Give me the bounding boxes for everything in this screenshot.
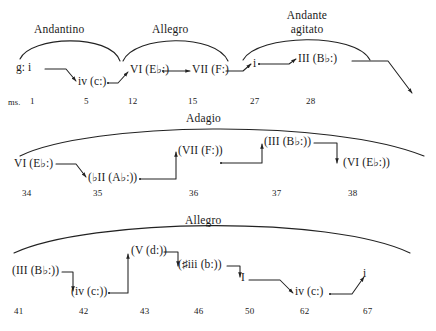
measure-number-row1-6: 28 <box>306 97 315 106</box>
tempo-label-andante: Andante <box>272 10 342 22</box>
chord-row3-6-text: iv (c:) <box>295 285 323 297</box>
connector-VI-to-bII <box>56 164 86 177</box>
chord-row3-3-text: (V (d:)) <box>131 244 167 256</box>
measure-number-row1-4: 15 <box>188 97 197 106</box>
measure-number-row2-1: 34 <box>22 189 31 198</box>
measure-number-row3-4: 46 <box>194 307 203 316</box>
chord-row1-1: g: i <box>16 62 31 74</box>
chord-row1-5: i <box>253 58 256 70</box>
measure-number-row2-3: 36 <box>189 189 198 198</box>
measure-number-row1-1: 1 <box>30 97 35 106</box>
connector-iv-to-VI <box>108 72 128 83</box>
ms-prefix-label: ms. <box>8 98 21 107</box>
chord-row2-3-text: (VII (F:)) <box>178 144 223 156</box>
tempo-label-adagio: Adagio <box>186 113 221 125</box>
chord-row1-4: VII (F:) <box>192 64 229 76</box>
measure-number-row1-2: 5 <box>84 97 89 106</box>
chord-row3-5: I <box>241 270 245 284</box>
chord-row2-2-text: (♭II (A♭:)) <box>88 171 137 183</box>
measure-number-row3-6: 62 <box>300 307 309 316</box>
connector-I-to-iv-row3 <box>249 280 293 293</box>
connector-III-to-next-system <box>352 61 412 93</box>
measure-number-row2-4: 37 <box>272 189 281 198</box>
chord-row3-4: (♯iii (b:)) <box>178 259 222 271</box>
measure-number-row3-5: 50 <box>245 307 254 316</box>
connector-bII-to-VII <box>140 152 176 179</box>
chord-row3-2-text: (iv (c:)) <box>71 285 107 297</box>
connector-g-i-to-iv <box>45 69 76 81</box>
chord-row3-1: (III (B♭:)) <box>12 265 59 277</box>
chord-row3-5-text: I <box>241 271 245 283</box>
chord-row3-7-text: i <box>363 267 366 279</box>
chord-row3-3: (V (d:)) <box>131 245 167 257</box>
measure-number-row3-7: 67 <box>363 307 372 316</box>
measure-number-row3-3: 43 <box>140 307 149 316</box>
chord-row1-1-text: g: i <box>16 61 31 73</box>
connector-sharp-iii-to-I <box>227 266 240 277</box>
measure-number-row3-1: 41 <box>14 307 23 316</box>
measure-number-row2-5: 38 <box>348 189 357 198</box>
chord-row1-5-text: i <box>253 57 256 69</box>
connector-i-to-III <box>259 59 296 64</box>
chord-row2-2: (♭II (A♭:)) <box>88 172 137 184</box>
chord-row3-6: iv (c:) <box>295 286 323 298</box>
chord-row1-3: VI (E♭:) <box>130 64 169 76</box>
chord-row3-7: i <box>363 268 366 280</box>
tempo-label-allegro-row1: Allegro <box>152 24 189 36</box>
arc-allegro-row3 <box>14 226 410 253</box>
chord-row3-1-text: (III (B♭:)) <box>12 264 59 276</box>
measure-number-row1-3: 12 <box>128 97 137 106</box>
chord-row2-5: (VI (E♭:)) <box>343 157 390 169</box>
chord-row2-1: VI (E♭:) <box>14 158 53 170</box>
tempo-label-allegro-row3: Allegro <box>185 215 222 227</box>
chord-row3-4-text: (♯iii (b:)) <box>178 258 222 270</box>
chord-row2-1-text: VI (E♭:) <box>14 157 53 169</box>
arc-andantino <box>20 41 120 61</box>
chord-row1-6-text: III (B♭:) <box>298 52 337 64</box>
connector-VII-to-i <box>226 64 251 71</box>
chord-row2-3: (VII (F:)) <box>178 145 223 157</box>
chord-row2-4: (III (B♭:)) <box>264 136 311 148</box>
chord-row1-2: iv (c:) <box>78 76 106 88</box>
tempo-label-andantino: Andantino <box>34 24 84 36</box>
chord-row2-4-text: (III (B♭:)) <box>264 135 311 147</box>
chord-row1-6: III (B♭:) <box>298 53 337 65</box>
chord-row1-2-text: iv (c:) <box>78 75 106 87</box>
measure-number-row3-2: 42 <box>79 307 88 316</box>
connector-iv-to-V-row3 <box>109 254 128 293</box>
harmonic-analysis-figure: Andantino Allegro Andante agitato g: i i… <box>0 0 436 331</box>
connector-iv-to-i-row3 <box>330 277 364 294</box>
connector-VII-to-III <box>221 144 262 163</box>
chord-row3-2: (iv (c:)) <box>71 286 107 298</box>
chord-row1-3-text: VI (E♭:) <box>130 63 169 75</box>
connector-III-to-VI <box>314 143 337 163</box>
chord-row1-4-text: VII (F:) <box>192 63 229 75</box>
measure-number-row2-2: 35 <box>93 189 102 198</box>
measure-number-row1-5: 27 <box>250 97 259 106</box>
tempo-label-agitato: agitato <box>272 24 342 36</box>
arc-allegro-row1 <box>123 41 228 61</box>
chord-row2-5-text: (VI (E♭:)) <box>343 156 390 168</box>
